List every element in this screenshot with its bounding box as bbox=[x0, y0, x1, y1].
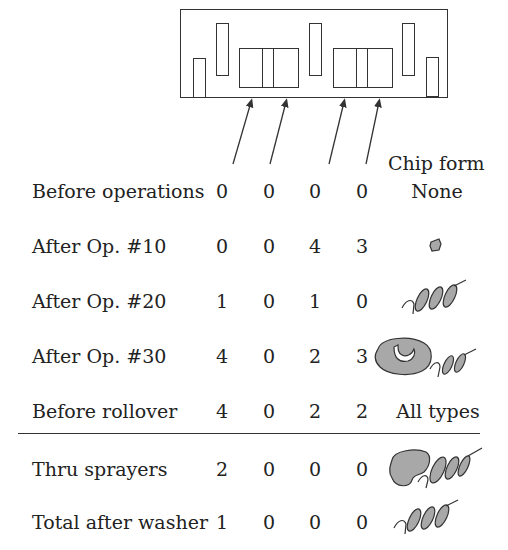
cell: 0 bbox=[352, 458, 372, 480]
chip-form-text: All types bbox=[388, 400, 488, 422]
cell: 3 bbox=[352, 345, 372, 367]
row-label: After Op. #30 bbox=[32, 345, 166, 367]
spiral-chip-icon bbox=[400, 278, 468, 318]
cell: 4 bbox=[305, 235, 325, 257]
cell: 1 bbox=[305, 290, 325, 312]
cell: 1 bbox=[212, 511, 232, 533]
cell: 0 bbox=[259, 290, 279, 312]
row-label: Total after washer bbox=[32, 511, 208, 533]
divider bbox=[18, 433, 480, 434]
row-label: After Op. #10 bbox=[32, 235, 166, 257]
spiral-chip-icon bbox=[392, 498, 460, 538]
arrow-1 bbox=[233, 102, 251, 164]
cell: 0 bbox=[352, 290, 372, 312]
cell: 2 bbox=[305, 345, 325, 367]
cell: 0 bbox=[259, 235, 279, 257]
arrow-2 bbox=[270, 102, 286, 164]
arrow-4 bbox=[366, 102, 379, 164]
cell: 4 bbox=[212, 345, 232, 367]
arrow-3 bbox=[329, 102, 344, 164]
chip-form-header: Chip form bbox=[388, 152, 485, 174]
cell: 0 bbox=[305, 458, 325, 480]
cell: 0 bbox=[259, 180, 279, 202]
cell: 0 bbox=[352, 511, 372, 533]
row-label: Before operations bbox=[32, 180, 204, 202]
cell: 0 bbox=[259, 400, 279, 422]
cell: 0 bbox=[305, 180, 325, 202]
row-label: After Op. #20 bbox=[32, 290, 166, 312]
row-label: Before rollover bbox=[32, 400, 177, 422]
cell: 2 bbox=[212, 458, 232, 480]
chip-form-text: None bbox=[382, 180, 492, 202]
cell: 0 bbox=[352, 180, 372, 202]
cell: 0 bbox=[212, 180, 232, 202]
cell: 0 bbox=[259, 458, 279, 480]
cell: 0 bbox=[259, 511, 279, 533]
small-chip-icon bbox=[428, 238, 444, 254]
cell: 0 bbox=[212, 235, 232, 257]
cell: 2 bbox=[305, 400, 325, 422]
cell: 0 bbox=[305, 511, 325, 533]
curl-and-spiral-chip-icon bbox=[372, 335, 482, 379]
cell: 4 bbox=[212, 400, 232, 422]
row-label: Thru sprayers bbox=[32, 458, 167, 480]
cell: 3 bbox=[352, 235, 372, 257]
curl-and-spiral-chip-icon bbox=[388, 446, 488, 490]
cell: 1 bbox=[212, 290, 232, 312]
cell: 2 bbox=[352, 400, 372, 422]
cell: 0 bbox=[259, 345, 279, 367]
